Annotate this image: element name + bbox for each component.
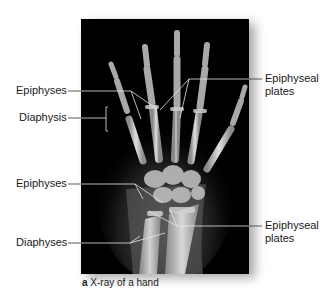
label-line-1: Epiphyseal (265, 72, 319, 85)
caption-text: X-ray of a hand (90, 277, 158, 288)
label-epiphyses-upper: Epiphyses (16, 84, 67, 97)
label-diaphyses: Diaphyses (16, 236, 67, 249)
label-epiphyseal-plates-upper: Epiphyseal plates (265, 72, 319, 98)
label-line-1: Epiphyseal (265, 219, 319, 232)
leader-lines-outside (0, 0, 333, 294)
xray-figure: Epiphyses Diaphysis Epiphyses Diaphyses … (0, 0, 333, 294)
label-line-2: plates (265, 232, 319, 245)
label-diaphysis: Diaphysis (19, 111, 67, 124)
label-line-2: plates (265, 85, 319, 98)
figure-caption: a X-ray of a hand (82, 277, 159, 288)
label-epiphyses-lower: Epiphyses (16, 177, 67, 190)
caption-letter: a (82, 277, 88, 288)
label-epiphyseal-plates-lower: Epiphyseal plates (265, 219, 319, 245)
